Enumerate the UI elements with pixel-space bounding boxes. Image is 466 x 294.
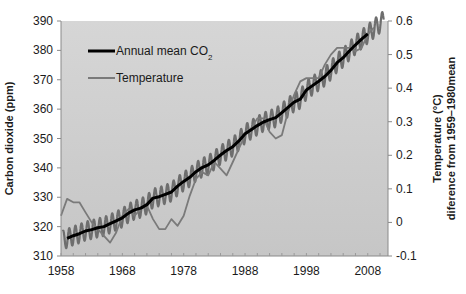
legend-temperature-label: Temperature [116, 71, 184, 85]
y-right-tick-label: -0.1 [396, 249, 417, 263]
y-right-tick-label: 0.2 [396, 148, 413, 162]
y-right-tick-label: 0.3 [396, 115, 413, 129]
y-right-axis-label-line2: diference from 1959–1980mean [445, 57, 457, 221]
co2-temperature-chart: 310320330340350360370380390-0.100.10.20.… [0, 0, 466, 294]
x-tick-label: 2008 [354, 264, 381, 278]
x-tick-label: 1958 [48, 264, 75, 278]
y-tick-label: 360 [33, 102, 53, 116]
y-right-axis-label-line1: Temperature (°C) [431, 94, 443, 183]
x-tick-label: 1998 [293, 264, 320, 278]
y-right-tick-label: 0.4 [396, 81, 413, 95]
y-right-tick-label: 0 [396, 215, 403, 229]
x-tick-label: 1988 [232, 264, 259, 278]
y-tick-label: 330 [33, 190, 53, 204]
y-tick-label: 390 [33, 14, 53, 28]
y-tick-label: 370 [33, 73, 53, 87]
y-tick-label: 350 [33, 132, 53, 146]
y-right-tick-label: 0.5 [396, 48, 413, 62]
y-right-tick-label: 0.6 [396, 14, 413, 28]
x-tick-label: 1978 [170, 264, 197, 278]
y-tick-label: 310 [33, 249, 53, 263]
y-tick-label: 340 [33, 161, 53, 175]
y-axis-label: Carbon dioxide (ppm) [3, 81, 15, 195]
y-tick-label: 320 [33, 220, 53, 234]
x-tick-label: 1968 [109, 264, 136, 278]
y-tick-label: 380 [33, 43, 53, 57]
y-right-tick-label: 0.1 [396, 182, 413, 196]
